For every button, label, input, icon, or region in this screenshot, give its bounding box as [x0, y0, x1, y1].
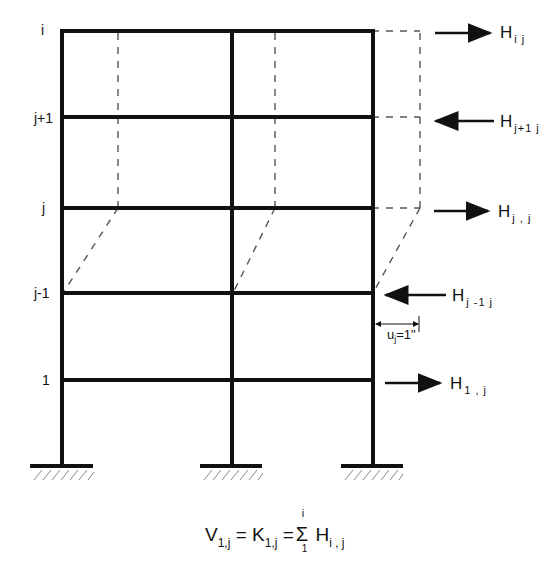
- frame-columns: [62, 29, 373, 466]
- formula-v-sub: 1,j: [218, 536, 231, 550]
- force-label-j-plus-1: Hj+1 j: [500, 113, 540, 137]
- formula-k-sub: 1,j: [265, 536, 278, 550]
- formula-eq: =: [230, 524, 252, 545]
- formula-h: H: [315, 524, 329, 545]
- formula-k: K: [252, 524, 265, 545]
- floor-label-j: j: [42, 201, 45, 215]
- sigma-icon: Σi1: [296, 523, 308, 546]
- fixed-supports: [30, 466, 403, 480]
- force-label-i: Hi j: [500, 24, 525, 48]
- floor-label-i: i: [41, 23, 44, 37]
- formula-v: V: [205, 524, 218, 545]
- formula-h-sub: i , j: [329, 536, 344, 550]
- force-label-j: Hj , j: [498, 203, 531, 227]
- force-label-1: H1 , j: [450, 375, 487, 399]
- floor-label-j-minus-1: j-1: [34, 286, 50, 300]
- frame-diagram: [0, 0, 560, 569]
- floor-label-j-plus-1: j+1: [34, 111, 53, 125]
- frame-beams: [62, 31, 374, 380]
- displacement-label: uj=1": [387, 327, 416, 344]
- floor-label-1: 1: [42, 373, 50, 387]
- force-label-j-minus-1: Hj -1 j: [452, 287, 493, 311]
- displaced-shape: [63, 31, 420, 293]
- formula-eq: =: [277, 524, 293, 545]
- shear-formula: V1,j = K1,j =Σi1 Hi , j: [205, 523, 345, 550]
